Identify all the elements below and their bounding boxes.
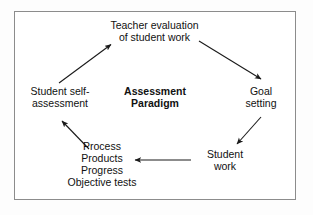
node-evidence-list-line3: Progress [48, 164, 156, 176]
node-teacher-evaluation: Teacher evaluation of student work [92, 19, 217, 43]
node-assessment-paradigm: Assessment Paradigm [113, 85, 197, 109]
arrow-student-self-assessment-to-teacher-evaluation [59, 45, 111, 84]
node-teacher-evaluation-line1: Teacher evaluation [92, 19, 217, 31]
diagram-screenshot: Teacher evaluation of student work Stude… [0, 0, 313, 215]
node-student-work-line1: Student [194, 148, 256, 160]
node-student-work-line2: work [194, 160, 256, 172]
node-goal-setting: Goal setting [232, 85, 290, 109]
node-assessment-paradigm-line1: Assessment [113, 85, 197, 97]
node-teacher-evaluation-line2: of student work [92, 31, 217, 43]
arrow-teacher-evaluation-to-goal-setting [199, 41, 261, 79]
node-assessment-paradigm-line2: Paradigm [113, 97, 197, 109]
node-evidence-list-line2: Products [48, 152, 156, 164]
node-student-self-assessment: Student self- assessment [14, 85, 106, 109]
node-student-self-assessment-line2: assessment [14, 97, 106, 109]
node-goal-setting-line2: setting [232, 97, 290, 109]
node-student-self-assessment-line1: Student self- [14, 85, 106, 97]
node-evidence-list: Process Products Progress Objective test… [48, 140, 156, 188]
node-student-work: Student work [194, 148, 256, 172]
arrow-goal-setting-to-student-work [237, 117, 261, 144]
node-evidence-list-line1: Process [48, 140, 156, 152]
node-goal-setting-line1: Goal [232, 85, 290, 97]
node-evidence-list-line4: Objective tests [48, 176, 156, 188]
